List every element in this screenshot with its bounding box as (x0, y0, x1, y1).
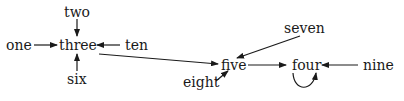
node-two: two (64, 4, 90, 20)
node-seven: seven (284, 20, 325, 36)
graph-canvas: one two three six ten seven five eight f… (0, 0, 404, 101)
node-four: four (292, 57, 322, 73)
node-ten: ten (125, 37, 148, 53)
node-nine: nine (363, 57, 394, 73)
node-eight: eight (183, 74, 220, 90)
node-six: six (67, 71, 87, 87)
node-one: one (6, 37, 32, 53)
node-three: three (59, 37, 97, 53)
edge-three-five (99, 54, 218, 64)
node-five: five (221, 57, 247, 73)
edge-four-self-loop (293, 73, 316, 87)
edge-seven-five (237, 36, 300, 58)
